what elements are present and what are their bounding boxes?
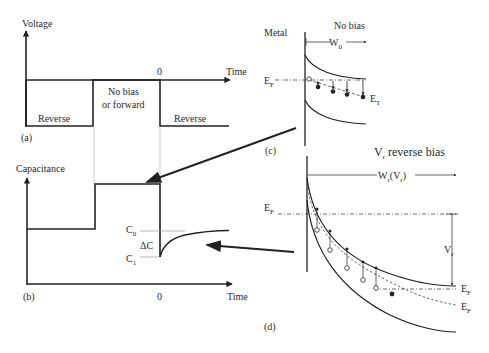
no-bias-label-line1: No bias <box>108 86 139 97</box>
wr-label: Wr(Vr) <box>378 170 406 184</box>
ef-right-label-2: EF <box>461 301 471 315</box>
vertical-guides <box>94 127 160 184</box>
zero-label-b: 0 <box>157 291 162 302</box>
no-bias-label-line2: or forward <box>102 99 144 110</box>
zero-label-a: 0 <box>157 66 162 77</box>
panel-d-reverse-bias-band: Vr reverse bias Wr(Vr) EF Vr EF EF (d) <box>264 145 471 333</box>
delta-c-label: ΔC <box>140 240 153 251</box>
metal-label: Metal <box>264 27 288 38</box>
time-axis-label-b: Time <box>227 291 248 302</box>
capacitance-axis-label: Capacitance <box>16 163 65 174</box>
panel-a-tag: (a) <box>21 132 32 144</box>
ef-right-label-1: EF <box>461 283 471 297</box>
panel-c-no-bias-band: No bias Metal W0 EF ET (c) <box>264 20 381 157</box>
reverse-label-2: Reverse <box>174 113 207 124</box>
vr-label: Vr <box>444 244 454 258</box>
c0-label: C0 <box>126 224 137 238</box>
time-axis-label-a: Time <box>226 66 247 77</box>
panel-b-capacitance: Capacitance C0 ΔC C1 0 Time (b) <box>16 163 248 303</box>
panel-d-tag: (d) <box>264 321 276 333</box>
dlts-diagram: Voltage Time 0 Reverse No bias or forwar… <box>0 0 489 353</box>
reverse-bias-title: Vr reverse bias <box>374 145 445 161</box>
ef-left-label-d: EF <box>264 202 274 216</box>
ef-label-c: EF <box>264 75 274 89</box>
voltage-axis-label: Voltage <box>22 18 53 29</box>
et-label: ET <box>370 93 381 107</box>
no-bias-title: No bias <box>334 20 365 31</box>
panel-a-voltage: Voltage Time 0 Reverse No bias or forwar… <box>21 18 247 144</box>
panel-b-tag: (b) <box>23 291 35 303</box>
reverse-label-1: Reverse <box>38 113 71 124</box>
c1-label: C1 <box>126 253 137 267</box>
panel-c-tag: (c) <box>265 145 276 157</box>
w0-label: W0 <box>329 37 342 51</box>
